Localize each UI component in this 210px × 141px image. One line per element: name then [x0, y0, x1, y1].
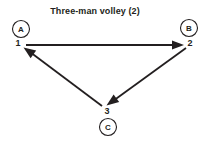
arrowhead-at-c: [107, 94, 120, 105]
drill-diagram: Three-man volley (2) A 1 B 2: [0, 0, 210, 141]
pass-arrow-b-to-c: [107, 48, 187, 106]
sequence-label-3: 3: [104, 106, 109, 116]
pass-arrow-a-to-b: [26, 40, 184, 49]
player-node-a[interactable]: A: [13, 21, 30, 38]
sequence-label-1: 1: [15, 38, 20, 48]
sequence-label-2: 2: [187, 38, 192, 48]
player-label-a: A: [18, 25, 24, 34]
player-node-b[interactable]: B: [181, 20, 198, 37]
arrowhead-at-a: [24, 48, 37, 59]
arrowhead-at-b: [172, 40, 184, 49]
player-node-c[interactable]: C: [100, 119, 117, 136]
player-label-b: B: [186, 24, 192, 33]
diagram-canvas: A 1 B 2 C 3: [0, 0, 210, 141]
player-label-c: C: [105, 123, 111, 132]
pass-arrow-c-to-a: [24, 48, 103, 107]
pass-line-c-to-a: [30, 52, 102, 106]
pass-line-b-to-c: [113, 48, 186, 101]
